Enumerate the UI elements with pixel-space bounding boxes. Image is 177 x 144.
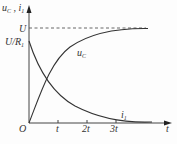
- chart: uC , i1 U U/R1 uC i1 O t 2t 3t t: [0, 0, 177, 144]
- origin-label: O: [19, 123, 26, 134]
- tick-label-3t: 3t: [109, 123, 118, 134]
- uc-curve-label: uC: [77, 47, 87, 59]
- u-over-r1-label: U/R1: [5, 36, 24, 48]
- chart-canvas: uC , i1 U U/R1 uC i1 O t 2t 3t t: [0, 0, 177, 144]
- x-axis-label: t: [166, 123, 169, 134]
- y-axis-arrow-icon: [27, 5, 32, 13]
- i1-curve-label: i1: [121, 109, 127, 121]
- tick-label-t: t: [56, 123, 59, 134]
- u-label: U: [19, 23, 27, 34]
- uc-curve: [29, 28, 148, 123]
- y-axis-label: uC , i1: [2, 2, 24, 14]
- tick-label-2t: 2t: [82, 123, 90, 134]
- i1-curve: [29, 41, 152, 122]
